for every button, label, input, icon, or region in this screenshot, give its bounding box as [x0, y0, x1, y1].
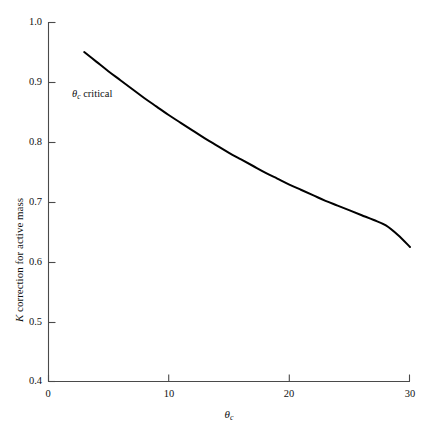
- annotation-text: critical: [81, 88, 113, 99]
- axis-spines: [48, 22, 410, 382]
- chart-figure: 1.0 0.9 0.8 0.7 0.6 0.5 0.4 0 10 20 30 K…: [0, 0, 430, 437]
- x-axis-label-subscript: c: [230, 413, 234, 422]
- y-axis-label: K correction for active mass: [14, 62, 25, 322]
- y-tick-label-1.0: 1.0: [8, 17, 42, 28]
- y-axis-ticks: [49, 23, 56, 382]
- x-axis-ticks: [49, 375, 410, 382]
- x-tick-label-20: 20: [284, 389, 295, 400]
- data-series-k-correction: [84, 52, 410, 247]
- chart-canvas: [0, 0, 430, 437]
- x-axis-label: θc: [225, 409, 234, 422]
- y-axis-label-text: correction for active mass: [13, 198, 25, 315]
- x-tick-label-30: 30: [405, 389, 416, 400]
- y-tick-label-0.4: 0.4: [8, 376, 42, 387]
- x-tick-label-0: 0: [45, 389, 50, 400]
- y-axis-label-symbol: K: [13, 315, 25, 322]
- annotation-theta-c-critical: θc critical: [72, 89, 112, 101]
- x-tick-label-10: 10: [164, 389, 175, 400]
